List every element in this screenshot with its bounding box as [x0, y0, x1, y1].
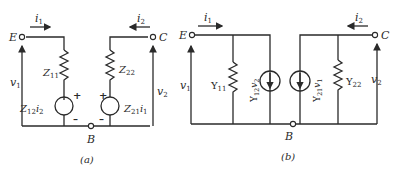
- terminal-e-b: [189, 32, 194, 37]
- label-e-b: E: [178, 29, 187, 42]
- label-v2-a: v2: [157, 85, 168, 99]
- label-c-a: C: [159, 31, 168, 44]
- label-z21i1: Z21i1: [123, 103, 148, 116]
- label-v1-a: v1: [10, 76, 21, 90]
- wire-b-top-right: [300, 35, 372, 124]
- minus-sign-left: –: [73, 113, 78, 124]
- label-v2-b: v2: [371, 73, 382, 87]
- terminal-c-a: [150, 34, 155, 39]
- label-b-a: B: [86, 133, 95, 146]
- caption-b: (b): [281, 151, 295, 162]
- label-y12v2: Y12v2: [249, 79, 261, 103]
- label-z12i2: Z12i2: [19, 103, 44, 116]
- wire-a-top-right: [110, 37, 148, 50]
- label-y22: Y22: [345, 76, 362, 89]
- label-z11: Z11: [42, 67, 59, 80]
- label-i2-a: i2: [137, 12, 145, 26]
- panel-b-y-parameter-circuit: i1 i2 E C B (b) v1 v2 Y11 Y22 Y12v2 Y21v…: [178, 11, 390, 162]
- label-v1-b: v1: [180, 79, 191, 93]
- label-i1-b: i1: [204, 11, 212, 25]
- panel-a-z-parameter-circuit: i1 i2 E C B (a) v1 v2 Z11 Z22 Z12i2 Z21i…: [8, 12, 168, 165]
- terminal-b-a: [88, 123, 93, 128]
- label-b-b: B: [284, 130, 293, 143]
- label-c-b: C: [381, 29, 390, 42]
- resistor-z11-icon: [60, 50, 68, 100]
- wire-a-top-left: [26, 37, 64, 50]
- caption-a: (a): [80, 154, 94, 165]
- minus-sign-right: –: [99, 113, 104, 124]
- label-y11: Y11: [210, 80, 227, 93]
- label-i2-b: i2: [355, 11, 363, 25]
- plus-sign-left: +: [73, 90, 81, 101]
- resistor-y22-icon: [334, 60, 342, 124]
- terminal-c-b: [372, 32, 377, 37]
- label-e-a: E: [8, 31, 17, 44]
- plus-sign-right: +: [99, 90, 107, 101]
- terminal-e-a: [19, 34, 24, 39]
- resistor-y11-icon: [229, 62, 237, 124]
- terminal-b-b: [290, 121, 295, 126]
- label-y21v1: Y21v1: [312, 79, 324, 103]
- label-z22: Z22: [118, 64, 135, 77]
- label-i1-a: i1: [35, 12, 43, 26]
- two-port-equivalent-circuits: i1 i2 E C B (a) v1 v2 Z11 Z22 Z12i2 Z21i…: [0, 0, 395, 169]
